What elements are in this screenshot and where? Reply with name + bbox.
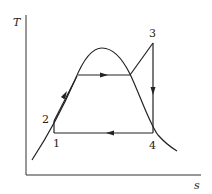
point-1-label: 1 [53, 137, 60, 150]
process-superheat [130, 43, 153, 75]
axes: T s [13, 15, 201, 192]
arrow-right-icon [100, 73, 108, 78]
point-4-label: 4 [149, 139, 156, 152]
point-2-label: 2 [42, 113, 49, 126]
y-axis-label: T [13, 16, 22, 29]
point-3-label: 3 [149, 27, 156, 40]
x-axis-label: s [194, 179, 200, 192]
arrow-left-icon [106, 131, 114, 136]
process-2-heating [54, 76, 77, 121]
ts-diagram: T s 1 2 3 4 [0, 0, 212, 194]
arrow-down-icon [151, 87, 156, 95]
